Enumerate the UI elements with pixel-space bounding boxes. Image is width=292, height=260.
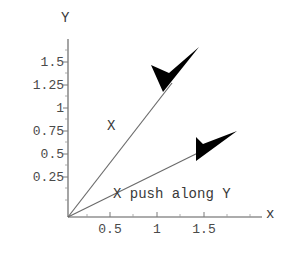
y-tick-label-0-5: 0.5 (41, 147, 64, 162)
vector-x-label: X (107, 118, 115, 134)
vector-plot-figure: 1.5 1.25 1 0.75 0.5 0.25 0.5 1 1.5 Y x X… (0, 0, 292, 260)
x-axis-ticks (110, 212, 204, 217)
y-axis-label: Y (61, 10, 69, 26)
y-tick-label-0-75: 0.75 (33, 124, 64, 139)
y-tick-label-0-25: 0.25 (33, 170, 64, 185)
vector-push-shaft (68, 148, 208, 217)
y-tick-label-1-25: 1.25 (33, 78, 64, 93)
vector-push-arrowhead (196, 131, 237, 161)
x-tick-label-0-5: 0.5 (98, 222, 121, 237)
x-axis-label: x (266, 206, 274, 222)
vector-push-label: X push along Y (113, 186, 231, 202)
vector-x-arrowhead (151, 47, 199, 92)
x-tick-label-1: 1 (153, 222, 161, 237)
y-tick-label-1-5: 1.5 (41, 55, 64, 70)
x-tick-label-1-5: 1.5 (192, 222, 215, 237)
y-tick-label-1: 1 (56, 101, 64, 116)
